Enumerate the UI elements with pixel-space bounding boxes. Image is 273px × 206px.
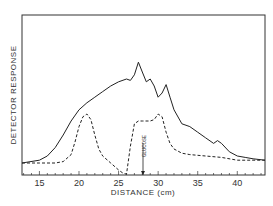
svg-text:15: 15	[34, 178, 44, 188]
x-tick-labels: 152025303540	[34, 178, 242, 188]
svg-text:20: 20	[74, 178, 84, 188]
svg-text:35: 35	[193, 178, 203, 188]
chart: 152025303540 GLUCOSE DISTANCE (cm) DETEC…	[0, 0, 273, 206]
glucose-label: GLUCOSE	[142, 135, 147, 157]
svg-text:40: 40	[232, 178, 242, 188]
svg-text:30: 30	[153, 178, 163, 188]
glucose-annotation: GLUCOSE	[141, 135, 147, 175]
svg-text:25: 25	[114, 178, 124, 188]
y-axis-title: DETECTOR RESPONSE	[9, 45, 18, 144]
x-axis-title: DISTANCE (cm)	[111, 188, 176, 197]
